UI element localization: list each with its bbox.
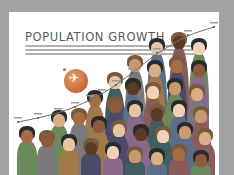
curve-point-label <box>112 80 120 82</box>
curve-point-label <box>86 95 94 97</box>
curve-point <box>57 112 59 114</box>
curve-point-label <box>184 30 192 32</box>
curve-point <box>115 84 117 86</box>
curve-point-label <box>34 113 42 115</box>
curve-point <box>156 52 158 54</box>
curve-point <box>131 72 133 74</box>
curve-point <box>74 106 76 108</box>
curve-point <box>213 26 215 28</box>
curve-point-label <box>128 68 136 70</box>
curve-point <box>17 121 19 123</box>
curve-point-label <box>153 48 161 50</box>
curve-point <box>37 117 39 119</box>
infographic-card: POPULATION GROWTH ✈ <box>9 12 219 175</box>
growth-curve <box>9 12 219 175</box>
curve-point <box>101 93 103 95</box>
curve-point <box>187 34 189 36</box>
curve-point-label <box>54 108 62 110</box>
curve-point-label <box>14 117 22 119</box>
curve-point <box>89 99 91 101</box>
curve-point-label <box>210 22 218 24</box>
curve-point-label <box>71 102 79 104</box>
curve-point-label <box>98 89 106 91</box>
